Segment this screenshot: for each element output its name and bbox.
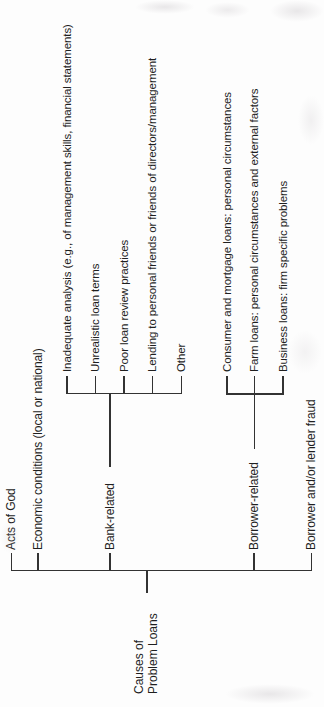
branch-label-bank-related: Bank-related	[103, 483, 118, 550]
child-tick	[282, 376, 284, 395]
child-tick	[152, 376, 154, 395]
child-tick	[226, 376, 228, 395]
root-label-line1: Causes of	[133, 613, 147, 694]
child-tick	[254, 376, 256, 395]
branch-label-acts-of-god: Acts of God	[4, 488, 19, 550]
child-label-inadequate-analysis: Inadequate analysis (e.g., of management…	[60, 24, 75, 372]
branch-tick	[311, 554, 313, 572]
branch-tick	[109, 554, 111, 572]
root-stem-line	[146, 570, 148, 593]
child-label-unrealistic-loan-terms: Unrealistic loan terms	[88, 264, 103, 372]
branch-tick	[11, 554, 13, 572]
child-label-other: Other	[174, 344, 189, 372]
borrower-subtree-stem	[254, 393, 256, 449]
root-label: Causes of Problem Loans	[133, 613, 160, 694]
child-tick	[95, 376, 97, 395]
branch-label-borrower-lender-fraud: Borrower and/or lender fraud	[304, 399, 319, 550]
child-label-consumer-mortgage-loans: Consumer and mortgage loans: personal ci…	[220, 92, 235, 372]
child-label-lending-to-friends: Lending to personal friends or friends o…	[145, 58, 160, 372]
bank-subtree-stem	[109, 393, 111, 467]
branch-tick	[37, 554, 39, 572]
child-label-business-loans: Business loans: firm specific problems	[276, 181, 291, 372]
child-tick	[123, 376, 125, 395]
child-label-poor-loan-review: Poor loan review practices	[117, 240, 132, 372]
child-label-farm-loans: Farm loans: personal circumstances and e…	[247, 89, 262, 372]
figure-canvas: Causes of Problem Loans Acts of God Econ…	[0, 0, 324, 707]
branch-tick	[253, 554, 255, 572]
branch-label-economic-conditions: Economic conditions (local or national)	[31, 348, 46, 550]
child-tick	[66, 376, 68, 395]
trunk-line	[11, 570, 313, 572]
branch-label-borrower-related: Borrower-related	[247, 462, 262, 550]
child-tick	[181, 376, 183, 395]
tree-rotated-layer: Causes of Problem Loans Acts of God Econ…	[0, 0, 324, 707]
root-label-line2: Problem Loans	[147, 613, 161, 694]
